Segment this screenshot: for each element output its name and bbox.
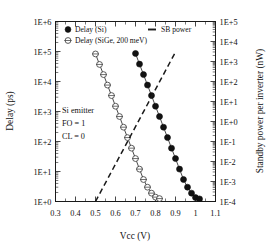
y-right-tick-label: 1E+2 bbox=[220, 78, 238, 87]
data-point bbox=[137, 61, 143, 67]
data-point bbox=[185, 184, 191, 190]
x-tick-label: 1.1 bbox=[210, 209, 220, 218]
y-tick-label: 1E+5 bbox=[33, 48, 51, 57]
delay-vs-vcc-chart: 1E+01E+11E+21E+31E+41E+51E+6 1E-41E-31E-… bbox=[0, 0, 275, 247]
y-right-tick-label: 1E+4 bbox=[220, 38, 239, 47]
legend-label-delay-sige: Delay (SiGe, 200 meV) bbox=[75, 36, 148, 45]
x-tick-label: 0.6 bbox=[110, 209, 120, 218]
x-axis-tick-labels: 0.30.40.50.60.70.80.911.1 bbox=[50, 209, 220, 218]
y-tick-label: 1E+2 bbox=[33, 138, 51, 147]
y-axis-title: Delay (ps) bbox=[5, 91, 16, 130]
legend-label-sb-power: SB power bbox=[161, 25, 192, 34]
chart-figure: 1E+01E+11E+21E+31E+41E+51E+6 1E-41E-31E-… bbox=[0, 0, 275, 247]
x-tick-label: 0.4 bbox=[70, 209, 81, 218]
x-axis-title: Vcc (V) bbox=[120, 231, 150, 242]
y-right-tick-label: 1E+0 bbox=[220, 118, 238, 127]
data-point bbox=[165, 135, 171, 141]
y-tick-label: 1E+0 bbox=[33, 198, 51, 207]
y-tick-label: 1E+3 bbox=[33, 108, 51, 117]
y-right-tick-label: 1E-2 bbox=[220, 158, 236, 167]
data-point bbox=[181, 177, 187, 183]
data-point bbox=[197, 196, 203, 202]
annotation-line-2: FO = 1 bbox=[62, 119, 85, 128]
data-point bbox=[157, 114, 163, 120]
data-point bbox=[169, 145, 175, 151]
x-tick-label: 0.3 bbox=[50, 209, 60, 218]
x-tick-label: 0.7 bbox=[130, 209, 140, 218]
data-point bbox=[153, 103, 159, 109]
y-right-tick-label: 1E+5 bbox=[220, 18, 238, 27]
y-tick-label: 1E+1 bbox=[33, 168, 51, 177]
y-right-tick-label: 1E-3 bbox=[220, 178, 236, 187]
y-right-tick-label: 1E+3 bbox=[220, 58, 238, 67]
data-point bbox=[161, 124, 167, 130]
y-right-tick-label: 1E-1 bbox=[220, 138, 236, 147]
x-tick-label: 0.8 bbox=[150, 209, 160, 218]
x-tick-label: 0.5 bbox=[90, 209, 100, 218]
annotation-line-3: CL = 0 bbox=[62, 132, 85, 141]
y-right-tick-label: 1E-4 bbox=[220, 198, 237, 207]
data-point bbox=[177, 166, 183, 172]
annotation-line-1: Si emitter bbox=[62, 106, 94, 115]
legend-label-delay-si: Delay (Si) bbox=[75, 25, 107, 34]
data-point bbox=[133, 50, 139, 56]
x-tick-label: 0.9 bbox=[170, 209, 180, 218]
data-point bbox=[141, 72, 147, 78]
legend-marker-delay-sige bbox=[64, 38, 71, 44]
y-tick-label: 1E+6 bbox=[33, 18, 51, 27]
y-axis-right-title: Standby power per inverter (nW) bbox=[255, 49, 266, 173]
data-point bbox=[173, 156, 179, 162]
x-tick-label: 1 bbox=[193, 209, 197, 218]
data-point bbox=[145, 82, 151, 88]
y-right-tick-label: 1E+1 bbox=[220, 98, 238, 107]
legend-marker-delay-si bbox=[65, 27, 71, 33]
y-tick-label: 1E+4 bbox=[33, 78, 52, 87]
